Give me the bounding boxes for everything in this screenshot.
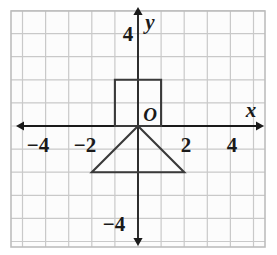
y-axis-label: y — [145, 12, 154, 33]
x-tick-label-neg2: −2 — [74, 135, 96, 156]
x-tick-label-neg4: −4 — [27, 135, 49, 156]
origin-label: O — [143, 105, 157, 124]
x-tick-label-2: 2 — [181, 135, 192, 156]
x-tick-label-4: 4 — [227, 135, 238, 156]
y-tick-label-neg4: −4 — [103, 214, 125, 235]
coordinate-plane-figure: −4 −2 2 4 4 −4 x y O — [0, 0, 277, 255]
coordinate-plane-canvas — [0, 0, 277, 255]
y-tick-label-4: 4 — [123, 24, 134, 45]
x-axis-label: x — [246, 100, 257, 121]
